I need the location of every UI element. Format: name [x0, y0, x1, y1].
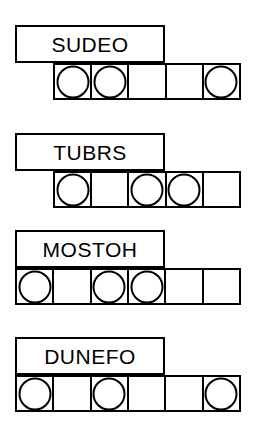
circle-icon [130, 270, 163, 303]
word-label: MOSTOH [17, 239, 163, 260]
word-label: DUNEFO [17, 346, 163, 367]
answer-cell[interactable] [167, 65, 204, 98]
circle-icon [93, 270, 126, 303]
answer-cell[interactable] [166, 377, 203, 410]
circle-icon [56, 65, 89, 98]
cell-row [53, 171, 241, 208]
puzzle-group: TUBRS [15, 133, 241, 208]
answer-cell-marked[interactable] [92, 65, 129, 98]
cell-row [15, 268, 241, 305]
puzzle-group: SUDEO [15, 25, 241, 100]
answer-cell[interactable] [129, 377, 166, 410]
answer-cell-marked[interactable] [55, 65, 92, 98]
answer-cell-marked[interactable] [17, 377, 54, 410]
answer-cell-marked[interactable] [129, 270, 166, 303]
cell-row [15, 375, 241, 412]
answer-cell[interactable] [204, 173, 241, 206]
circle-icon [18, 270, 51, 303]
circle-icon [93, 65, 126, 98]
puzzle-sheet: SUDEOTUBRSMOSTOHDUNEFO [0, 0, 254, 424]
word-box: SUDEO [15, 25, 165, 63]
circle-icon [18, 377, 51, 410]
answer-cell-marked[interactable] [92, 270, 129, 303]
circle-icon [205, 377, 238, 410]
circle-icon [93, 377, 126, 410]
answer-cell-marked[interactable] [167, 173, 204, 206]
answer-cell-marked[interactable] [92, 377, 129, 410]
answer-cell-marked[interactable] [204, 377, 241, 410]
answer-cell-marked[interactable] [17, 270, 54, 303]
answer-cell-marked[interactable] [204, 65, 241, 98]
answer-cell[interactable] [54, 377, 91, 410]
circle-icon [56, 173, 89, 206]
word-box: TUBRS [15, 133, 165, 171]
answer-cell-marked[interactable] [129, 173, 166, 206]
circle-icon [205, 65, 238, 98]
word-box: DUNEFO [15, 337, 165, 375]
answer-cell[interactable] [92, 173, 129, 206]
answer-cell[interactable] [166, 270, 203, 303]
answer-cell[interactable] [54, 270, 91, 303]
answer-cell[interactable] [129, 65, 166, 98]
word-box: MOSTOH [15, 230, 165, 268]
answer-cell[interactable] [204, 270, 241, 303]
word-label: SUDEO [17, 34, 163, 55]
word-label: TUBRS [17, 142, 163, 163]
circle-icon [130, 173, 163, 206]
circle-icon [168, 173, 201, 206]
answer-cell-marked[interactable] [55, 173, 92, 206]
puzzle-group: DUNEFO [15, 337, 241, 412]
puzzle-group: MOSTOH [15, 230, 241, 305]
cell-row [53, 63, 241, 100]
